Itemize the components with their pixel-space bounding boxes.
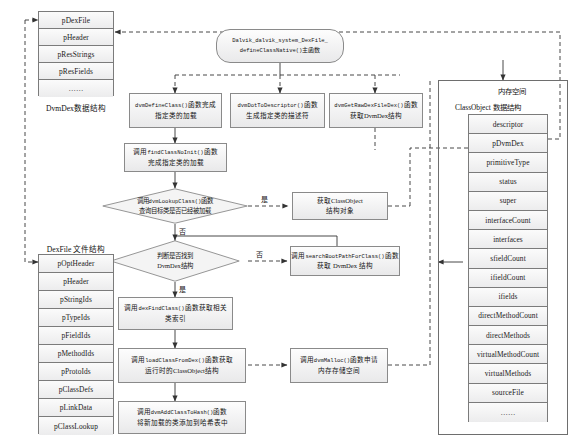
struct-classobject-row: sourceFile <box>469 384 547 403</box>
struct-dvmdex-row: pHeader <box>39 29 113 46</box>
struct-dvmdex: pDexFile pHeader pResStrings pResFields … <box>38 11 114 96</box>
struct-classobject-row: directMethods <box>469 326 547 345</box>
search-boot-path-line1: 调用searchBootPathForClass()函数 <box>291 251 398 262</box>
struct-classobject-row: ifields <box>469 288 547 307</box>
struct-dexfile-row: pStringIds <box>39 291 113 309</box>
edge-label-lookup-no: 否 <box>179 226 186 236</box>
get-raw-dexfile-line1: dvmGetRawDexFileDex()函数 <box>334 100 417 111</box>
classobject-caption: ClassObject 数据结构 <box>455 101 521 112</box>
node-load-class-from-dex: 调用loadClassFromDex()函数获取 运行时的ClassObject… <box>118 348 246 383</box>
get-raw-dexfile-line2: 获取DvmDex结构 <box>350 111 402 121</box>
struct-classobject-row: directMethodCount <box>469 307 547 326</box>
struct-classobject-row: status <box>469 173 547 192</box>
start-line2: defineClassNative()主函数 <box>240 46 321 56</box>
dvm-define-class-line2: 指定类的加载 <box>155 111 197 121</box>
struct-dexfile-row: pOptHeader <box>39 255 113 273</box>
add-class-to-hash-line1: 调用dvmAddClassToHash()函数 <box>137 407 228 418</box>
add-class-to-hash-line2: 将新加载的类添加到哈希表中 <box>137 418 228 428</box>
dvm-malloc-line1: 调用dvmMalloc()函数申请 <box>300 355 378 366</box>
load-class-from-dex-line1: 调用loadClassFromDex()函数获取 <box>131 355 232 366</box>
edge-label-lookup-yes: 是 <box>261 194 268 204</box>
dex-find-class-line2: 类索引 <box>165 314 186 324</box>
struct-dexfile-row: pFieldIds <box>39 327 113 345</box>
struct-dexfile-row: pClassLookup <box>39 417 113 435</box>
struct-classobject-row: interfaces <box>469 230 547 249</box>
decision-lookup-class: 调用dvmLookupClass()函数 查询目标类是否已经被加载 <box>102 188 248 224</box>
dex-find-class-line1: 调用dexFindClass()函数获取相关 <box>124 303 226 314</box>
struct-dexfile: pOptHeader pHeader pStringIds pTypeIds p… <box>38 254 114 434</box>
struct-classobject-row: interfaceCount <box>469 211 547 230</box>
struct-classobject-row: primitiveType <box>469 153 547 172</box>
struct-dexfile-row: pLinkData <box>39 399 113 417</box>
decision-lookup-class-shape <box>102 188 248 224</box>
find-class-noinit-line2: 完成指定类的加载 <box>148 158 204 168</box>
decision-check-dvmdex: 判断是否找到 DvmDex结构 <box>110 240 240 282</box>
search-boot-path-line2: 获取 DvmDex 结构 <box>317 261 372 271</box>
struct-dexfile-row: pProtoIds <box>39 363 113 381</box>
node-dvm-dot-to-descriptor: dvmDotToDescriptor()函数 生成指定类的描述符 <box>230 93 325 128</box>
decision-check-dvmdex-shape <box>110 240 240 282</box>
struct-classobject-row: ifieldCount <box>469 269 547 288</box>
struct-dexfile-row: pTypeIds <box>39 309 113 327</box>
struct-classobject-row: virtualMethodCount <box>469 345 547 364</box>
struct-classobject: descriptor pDvmDex primitiveType status … <box>468 114 548 422</box>
get-classobject-line2: 结构对象 <box>326 206 354 216</box>
get-classobject-line1: 获取ClassObject <box>317 196 363 206</box>
node-search-boot-path: 调用searchBootPathForClass()函数 获取 DvmDex 结… <box>290 246 400 276</box>
struct-dexfile-row: pClassDefs <box>39 381 113 399</box>
struct-dvmdex-row: pDexFile <box>39 12 113 29</box>
memory-space-label: 内存空间 <box>498 85 526 96</box>
flowchart-canvas: Dalvik_dalvik_system_DexFile_ defineClas… <box>0 0 577 445</box>
node-dex-find-class: 调用dexFindClass()函数获取相关 类索引 <box>118 297 233 330</box>
struct-dvmdex-row: pResStrings <box>39 46 113 63</box>
node-find-class-noinit: 调用findClassNoInit()函数 完成指定类的加载 <box>124 143 227 172</box>
struct-dexfile-row: pHeader <box>39 273 113 291</box>
edge-label-dvmdex-yes: 是 <box>179 284 186 294</box>
struct-dvmdex-caption: DvmDex数据结构 <box>38 102 114 113</box>
start-line1: Dalvik_dalvik_system_DexFile_ <box>232 37 328 46</box>
node-dvm-malloc: 调用dvmMalloc()函数申请 内存存储空间 <box>290 348 388 383</box>
node-dvm-get-raw-dexfile-dex: dvmGetRawDexFileDex()函数 获取DvmDex结构 <box>329 93 423 128</box>
struct-classobject-row: sfieldCount <box>469 249 547 268</box>
struct-classobject-row: super <box>469 192 547 211</box>
struct-dexfile-row: pMethodIds <box>39 345 113 363</box>
dvm-malloc-line2: 内存存储空间 <box>318 366 360 376</box>
find-class-noinit-line1: 调用findClassNoInit()函数 <box>133 147 217 158</box>
struct-dvmdex-row: …… <box>39 80 113 97</box>
struct-dvmdex-row: pResFields <box>39 63 113 80</box>
load-class-from-dex-line2: 运行时的ClassObject结构 <box>145 366 219 376</box>
dot-to-descriptor-line2: 生成指定类的描述符 <box>246 111 309 121</box>
struct-classobject-row: descriptor <box>469 115 547 134</box>
struct-dexfile-caption: DexFile 文件结构 <box>34 243 118 254</box>
node-add-class-to-hash: 调用dvmAddClassToHash()函数 将新加载的类添加到哈希表中 <box>118 401 246 434</box>
start-node: Dalvik_dalvik_system_DexFile_ defineClas… <box>216 29 344 63</box>
struct-classobject-row: virtualMethods <box>469 364 547 383</box>
node-dvm-define-class: dvmDefineClass()函数完成 指定类的加载 <box>129 93 222 128</box>
dot-to-descriptor-line1: dvmDotToDescriptor()函数 <box>237 100 317 111</box>
struct-classobject-row: …… <box>469 403 547 422</box>
struct-classobject-row: pDvmDex <box>469 134 547 153</box>
dvm-define-class-line1: dvmDefineClass()函数完成 <box>135 100 216 111</box>
node-get-classobject: 获取ClassObject 结构对象 <box>292 192 388 220</box>
edge-label-dvmdex-no: 否 <box>256 249 263 259</box>
